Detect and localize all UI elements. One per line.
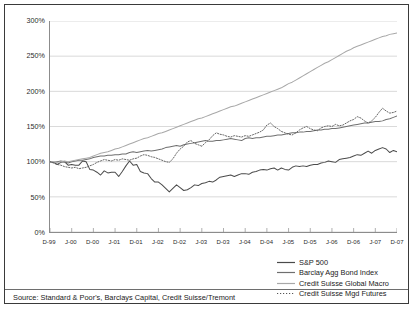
y-tick-label: 300% bbox=[5, 17, 45, 25]
series-line bbox=[50, 116, 397, 163]
legend-swatch-icon bbox=[277, 289, 295, 298]
series-line bbox=[50, 108, 397, 168]
legend-swatch-icon bbox=[277, 279, 295, 288]
legend-label: Barclay Agg Bond Index bbox=[299, 268, 378, 277]
source-separator bbox=[5, 289, 408, 290]
source-note: Source: Standard & Poor's, Barclays Capi… bbox=[13, 293, 235, 303]
chart-area: 0%50%100%150%200%250%300% D-99J-00D-00J-… bbox=[5, 5, 408, 255]
legend-swatch-icon bbox=[277, 268, 295, 277]
legend-label: Credit Suisse Global Macro bbox=[299, 279, 389, 288]
y-tick-label: 50% bbox=[5, 194, 45, 202]
legend-swatch-icon bbox=[277, 258, 295, 267]
x-tick-label: D-07 bbox=[382, 238, 412, 246]
legend-item: S&P 500 bbox=[277, 257, 405, 268]
legend-item: Credit Suisse Global Macro bbox=[277, 278, 405, 289]
chart-frame: 0%50%100%150%200%250%300% D-99J-00D-00J-… bbox=[4, 4, 409, 304]
chart-legend: S&P 500Barclay Agg Bond IndexCredit Suis… bbox=[277, 257, 405, 299]
legend-item: Barclay Agg Bond Index bbox=[277, 268, 405, 279]
legend-item: Credit Suisse Mgd Futures bbox=[277, 289, 405, 300]
y-tick-label: 200% bbox=[5, 88, 45, 96]
y-tick-label: 250% bbox=[5, 52, 45, 60]
y-tick-label: 100% bbox=[5, 158, 45, 166]
legend-label: Credit Suisse Mgd Futures bbox=[299, 289, 387, 298]
y-tick-label: 150% bbox=[5, 123, 45, 131]
plot-area bbox=[49, 21, 397, 233]
series-line bbox=[50, 148, 397, 192]
series-canvas bbox=[50, 21, 397, 232]
series-line bbox=[50, 33, 397, 162]
y-tick-label: 0% bbox=[5, 229, 45, 237]
legend-label: S&P 500 bbox=[299, 258, 328, 267]
